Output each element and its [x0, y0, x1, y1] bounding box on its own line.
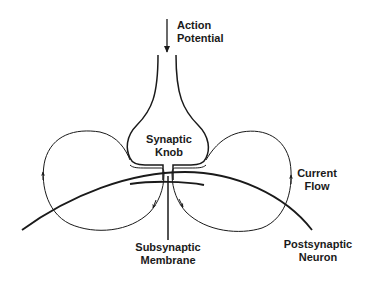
synaptic-knob-label-line1: Synaptic [138, 133, 200, 146]
postsynaptic-neuron-label: Postsynaptic Neuron [278, 238, 358, 264]
synaptic-knob-label-line2: Knob [138, 146, 200, 159]
action-potential-label-line1: Action [177, 19, 223, 32]
subsynaptic-membrane-label: Subsynaptic Membrane [128, 241, 208, 267]
subsynaptic-membrane-label-line1: Subsynaptic [128, 241, 208, 254]
subsynaptic-membrane [130, 182, 204, 185]
synaptic-knob-label: Synaptic Knob [138, 133, 200, 159]
action-potential-label: Action Potential [177, 19, 223, 45]
action-potential-label-line2: Potential [177, 32, 223, 45]
current-flow-label-line2: Flow [292, 180, 342, 193]
postsynaptic-neuron-label-line1: Postsynaptic [278, 238, 358, 251]
postsynaptic-neuron-label-line2: Neuron [278, 251, 358, 264]
subsynaptic-membrane-label-line2: Membrane [128, 254, 208, 267]
synaptic-knob-outline [127, 55, 208, 180]
current-flow-label: Current Flow [292, 167, 342, 193]
current-flow-label-line1: Current [292, 167, 342, 180]
